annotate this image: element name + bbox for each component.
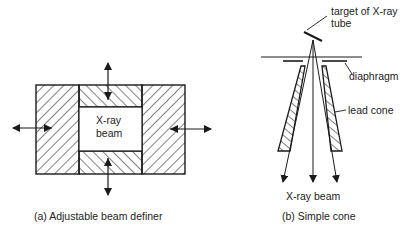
left-jaw (36, 85, 79, 174)
xray-beam-label: X-ray beam (286, 190, 340, 202)
caption-b: (b) Simple cone (282, 210, 356, 222)
diaphragm-label: diaphragm (349, 70, 399, 82)
target-leader-line (307, 16, 327, 30)
right-arrow-icon (170, 125, 211, 133)
target-label-line2: tube (331, 17, 351, 29)
lead-cone-left (278, 66, 305, 151)
bottom-jaw (79, 151, 142, 174)
diagram-canvas (0, 0, 411, 235)
target-label-line1: target of X-ray (331, 5, 398, 17)
beam-label-line1: X-ray (96, 114, 121, 126)
lead-cone-label: lead cone (348, 104, 394, 116)
caption-a: (a) Adjustable beam definer (34, 210, 162, 222)
beam-label-line2: beam (96, 127, 122, 139)
xray-target (304, 32, 322, 41)
left-arrow-icon (13, 124, 52, 132)
top-jaw (79, 85, 142, 107)
lead-cone-leader-line (335, 110, 346, 112)
simple-cone (261, 16, 362, 182)
